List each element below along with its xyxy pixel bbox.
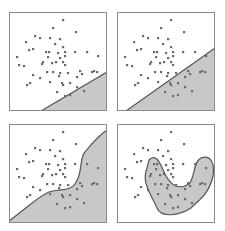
data-point [131,177,133,179]
data-point [39,37,41,39]
data-point [62,173,64,175]
data-point [160,27,162,29]
data-point [93,70,95,72]
data-point [42,173,44,175]
data-point [62,84,64,86]
data-point [41,175,43,177]
data-point [62,46,64,48]
data-point [194,51,196,53]
data-point [137,194,139,196]
data-point [165,52,167,54]
panel-top-left [9,12,107,111]
data-point [156,51,158,53]
data-point [62,158,64,160]
data-point [175,184,177,186]
data-point [48,163,50,165]
data-point [56,91,58,93]
data-point [150,173,152,175]
data-point [52,71,54,73]
data-point [126,176,128,178]
data-point [172,167,174,169]
data-point [29,194,31,196]
data-point [149,175,151,177]
data-point [64,95,66,97]
data-point [39,77,41,79]
data-point [59,150,61,152]
data-point [191,202,193,204]
data-point [167,72,169,74]
data-point [204,183,206,185]
data-point [142,147,144,149]
data-point [154,183,156,185]
data-point [34,35,36,37]
scatter-plot-linear-shallow [9,12,107,111]
data-point [59,169,61,171]
data-point [69,194,71,196]
data-point [64,163,66,165]
data-point [162,43,164,45]
data-point [172,64,174,66]
data-point [137,82,139,84]
data-point [61,194,63,196]
data-point [23,65,25,67]
data-point [76,76,78,78]
data-point [126,64,128,66]
scatter-plot-curved [9,124,107,223]
data-point [170,84,172,86]
data-point [147,149,149,151]
data-point [62,61,64,63]
data-point [76,188,78,190]
panel-top-right [117,12,215,111]
data-point [67,72,69,74]
data-point [26,196,28,198]
data-point [169,82,171,84]
data-point [32,186,34,188]
data-point [164,203,166,205]
data-point [155,168,157,170]
data-point [147,37,149,39]
data-point [97,55,99,57]
data-point [54,43,56,45]
data-point [64,176,66,178]
data-point [62,19,64,21]
data-point [199,183,201,185]
data-point [184,86,186,88]
data-point [86,51,88,53]
data-point [67,184,69,186]
data-point [64,64,66,66]
data-point [172,207,174,209]
data-point [124,168,126,170]
data-point [177,82,179,84]
data-point [32,74,34,76]
data-point [183,31,185,33]
data-point [64,207,66,209]
data-point [165,164,167,166]
data-point [74,163,76,165]
data-point [140,74,142,76]
data-point [75,31,77,33]
data-point [23,177,25,179]
data-point [157,37,159,39]
data-point [96,183,98,185]
data-point [49,149,51,151]
data-point [140,48,142,50]
data-point [167,57,169,59]
data-point [42,61,44,63]
data-point [49,81,51,83]
data-point [191,90,193,92]
data-point [204,71,206,73]
data-point [46,71,48,73]
data-point [170,46,172,48]
data-point [153,163,155,165]
data-point [194,163,196,165]
data-point [25,153,27,155]
data-point [52,139,54,141]
data-point [51,174,53,176]
panel-bottom-right [117,124,215,223]
data-point [45,51,47,53]
data-point [175,72,177,74]
data-point [154,71,156,73]
data-point [147,189,149,191]
data-point [163,173,165,175]
data-point [74,51,76,53]
